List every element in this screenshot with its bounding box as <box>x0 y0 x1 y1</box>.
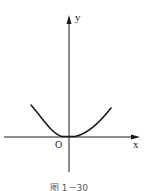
y-axis-label: y <box>75 12 81 23</box>
y-axis-arrow-icon <box>67 15 72 24</box>
origin-label: O <box>55 140 62 150</box>
x-axis-label: x <box>133 139 139 150</box>
parabola-curve <box>31 105 111 137</box>
figure-caption: 图 1－30 <box>50 184 88 191</box>
coordinate-diagram <box>0 0 146 191</box>
